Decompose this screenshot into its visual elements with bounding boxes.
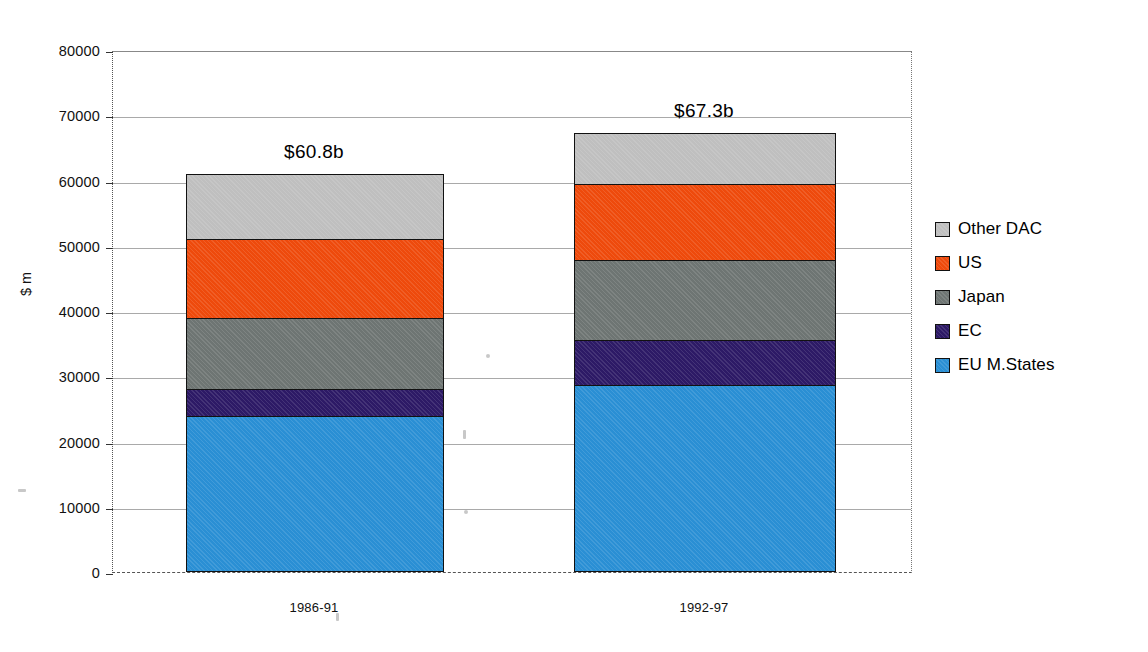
scan-artifact xyxy=(486,354,490,358)
legend-item[interactable]: Other DAC xyxy=(935,212,1055,246)
scan-artifact xyxy=(464,510,468,514)
y-tick-mark xyxy=(106,183,113,184)
legend-item[interactable]: Japan xyxy=(935,280,1055,314)
y-tick-label: 60000 xyxy=(59,174,100,190)
x-tick-label: 1986-91 xyxy=(289,600,338,615)
y-tick-label: 50000 xyxy=(59,239,100,255)
y-tick-label: 30000 xyxy=(59,369,100,385)
bar-segment-eu-m-states[interactable] xyxy=(574,385,836,572)
legend-item[interactable]: US xyxy=(935,246,1055,280)
legend: Other DACUSJapanECEU M.States xyxy=(935,212,1055,382)
scan-artifact xyxy=(463,430,466,439)
legend-label: Other DAC xyxy=(958,219,1042,239)
y-tick-mark xyxy=(106,444,113,445)
y-tick-label: 80000 xyxy=(59,43,100,59)
y-tick-label: 0 xyxy=(92,565,100,581)
y-axis-tick-labels: 0100002000030000400005000060000700008000… xyxy=(0,51,100,573)
bar-segment-other-dac[interactable] xyxy=(574,133,836,184)
y-tick-label: 10000 xyxy=(59,500,100,516)
x-tick-label: 1992-97 xyxy=(679,600,728,615)
legend-swatch-icon xyxy=(935,290,950,305)
y-tick-label: 20000 xyxy=(59,435,100,451)
bar-segment-japan[interactable] xyxy=(186,318,444,389)
bar-segment-ec[interactable] xyxy=(186,389,444,416)
legend-item[interactable]: EU M.States xyxy=(935,348,1055,382)
legend-swatch-icon xyxy=(935,222,950,237)
legend-label: Japan xyxy=(958,287,1005,307)
y-tick-mark xyxy=(106,378,113,379)
legend-label: EC xyxy=(958,321,982,341)
legend-swatch-icon xyxy=(935,358,950,373)
y-tick-label: 70000 xyxy=(59,108,100,124)
y-tick-mark xyxy=(106,574,113,575)
legend-swatch-icon xyxy=(935,256,950,271)
bar-1986-91[interactable] xyxy=(186,50,444,572)
y-tick-mark xyxy=(106,248,113,249)
bar-segment-eu-m-states[interactable] xyxy=(186,416,444,572)
scan-artifact xyxy=(336,613,339,621)
bar-segment-us[interactable] xyxy=(186,239,444,319)
chart-container: $ m 010000200003000040000500006000070000… xyxy=(0,0,1148,652)
scan-artifact xyxy=(18,489,26,492)
y-tick-mark xyxy=(106,117,113,118)
y-tick-mark xyxy=(106,313,113,314)
bar-segment-japan[interactable] xyxy=(574,260,836,340)
legend-item[interactable]: EC xyxy=(935,314,1055,348)
bar-segment-ec[interactable] xyxy=(574,340,836,384)
bar-total-label: $67.3b xyxy=(674,100,734,122)
legend-swatch-icon xyxy=(935,324,950,339)
bar-segment-other-dac[interactable] xyxy=(186,174,444,239)
y-tick-label: 40000 xyxy=(59,304,100,320)
legend-label: EU M.States xyxy=(958,355,1055,375)
bar-segment-us[interactable] xyxy=(574,184,836,260)
plot-area xyxy=(112,51,912,573)
y-tick-mark xyxy=(106,509,113,510)
bar-total-label: $60.8b xyxy=(284,141,344,163)
y-tick-mark xyxy=(106,52,113,53)
legend-label: US xyxy=(958,253,982,273)
bar-1992-97[interactable] xyxy=(574,50,836,572)
